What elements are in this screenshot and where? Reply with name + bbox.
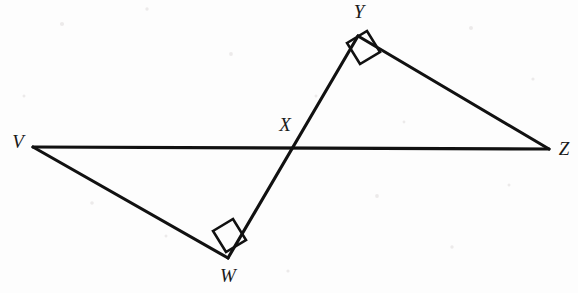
geometry-figure: V W X Y Z <box>0 0 578 293</box>
geometry-canvas: V W X Y Z <box>0 0 578 293</box>
vertex-label-w: W <box>220 265 238 286</box>
vertex-label-x: X <box>278 114 292 135</box>
vertex-label-z: Z <box>559 138 570 159</box>
